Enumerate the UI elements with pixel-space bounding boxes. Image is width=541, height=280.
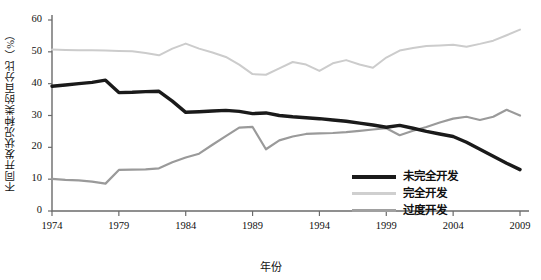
line-chart-plot <box>0 0 541 280</box>
chart-legend: 未完全开发完全开发过度开发 <box>352 168 482 219</box>
y-tick-label: 10 <box>20 172 42 183</box>
x-axis-title: 年份 <box>0 258 541 274</box>
y-tick-label: 20 <box>20 140 42 151</box>
x-tick-label: 1974 <box>29 220 75 231</box>
legend-item-label: 过度开发 <box>403 205 447 217</box>
x-tick-label: 1989 <box>230 220 276 231</box>
legend-swatch-icon <box>352 192 396 195</box>
y-tick-label: 0 <box>20 204 42 215</box>
series-line <box>52 80 520 169</box>
x-tick-label: 1994 <box>296 220 342 231</box>
legend-item-label: 完全开发 <box>403 188 447 200</box>
legend-item: 未完全开发 <box>352 168 482 185</box>
legend-swatch-icon <box>352 175 396 179</box>
legend-item: 完全开发 <box>352 185 482 202</box>
x-tick-label: 1979 <box>96 220 142 231</box>
x-tick-label: 1999 <box>363 220 409 231</box>
x-tick-label: 1984 <box>163 220 209 231</box>
y-tick-label: 30 <box>20 109 42 120</box>
x-tick-label: 2009 <box>497 220 541 231</box>
legend-item: 过度开发 <box>352 202 482 219</box>
y-tick-label: 60 <box>20 13 42 24</box>
y-tick-label: 40 <box>20 77 42 88</box>
x-tick-label: 2004 <box>430 220 476 231</box>
legend-item-label: 未完全开发 <box>403 171 458 183</box>
series-line <box>52 30 520 75</box>
chart-figure: 不同开发状况种类的百分比（%） 年份 未完全开发完全开发过度开发 0102030… <box>0 0 541 280</box>
legend-swatch-icon <box>352 209 396 212</box>
y-tick-label: 50 <box>20 45 42 56</box>
